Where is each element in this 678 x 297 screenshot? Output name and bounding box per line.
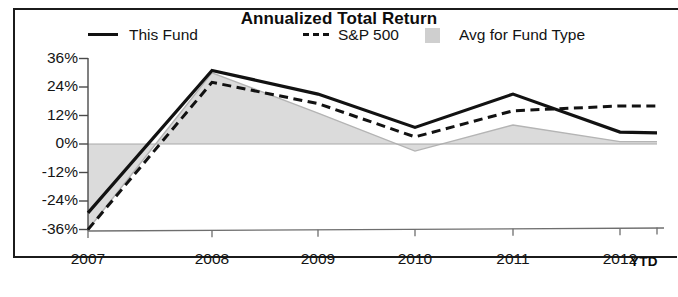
y-axis-tick-label: 36% xyxy=(18,49,78,67)
x-axis-tick-label: 2011 xyxy=(478,250,548,268)
y-axis-tick-label: -12% xyxy=(18,163,78,181)
x-axis-tick-label: 2009 xyxy=(283,250,353,268)
x-axis-line xyxy=(88,228,664,231)
x-axis-tick-label: 2008 xyxy=(177,250,247,268)
area-avg-for-fund-type xyxy=(88,73,657,230)
y-axis-tick-label: 0% xyxy=(18,134,78,152)
y-axis-tick-label: 24% xyxy=(18,77,78,95)
y-axis-tick-label: 12% xyxy=(18,106,78,124)
x-axis-tick-label: 2007 xyxy=(53,250,123,268)
y-axis-tick-label: -36% xyxy=(18,220,78,238)
y-axis-tick-label: -24% xyxy=(18,191,78,209)
x-axis-ytd-label: YTD xyxy=(630,254,658,269)
x-axis-tick-label: 2010 xyxy=(380,250,450,268)
line-sp500 xyxy=(88,82,657,229)
area-outline-avg-for-fund-type xyxy=(88,73,657,230)
